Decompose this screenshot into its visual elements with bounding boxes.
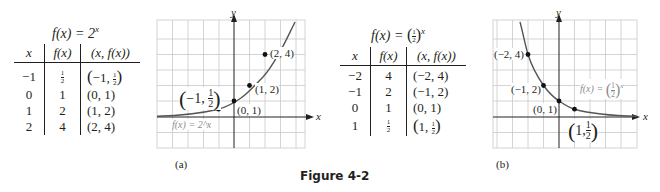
y-axis-label-b: y — [556, 6, 561, 18]
point-label-neg1-2: (−1, 2) — [511, 83, 541, 95]
figure-caption: Figure 4-2 — [300, 169, 369, 183]
x-axis-arrow-icon — [632, 114, 640, 120]
curve-label-b: f(x) = (12)x — [580, 79, 623, 99]
point-label-1-half: (1,12) — [568, 119, 598, 142]
panel-label-b: (b) — [496, 158, 509, 170]
graph-b — [0, 0, 660, 192]
x-axis-label-b: x — [643, 110, 648, 122]
point-label-0-1: (0, 1) — [533, 103, 557, 115]
point-label-neg2-4: (−2, 4) — [494, 48, 524, 60]
